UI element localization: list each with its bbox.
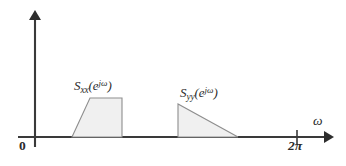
curve-sxx-label-sup: jω	[99, 78, 108, 88]
curve-syy-label-s: S	[180, 85, 187, 100]
curve-sxx-label-s: S	[74, 78, 81, 93]
curve-syy-label-close: )	[213, 85, 217, 100]
curve-syy-label: Syy(ejω)	[180, 86, 218, 99]
x-axis-label-omega: ω	[313, 114, 323, 128]
curve-syy-shape	[178, 104, 238, 137]
curve-syy-label-open: (e	[194, 85, 204, 100]
x-axis-tick-label-2pi: 2π	[288, 139, 302, 153]
axis-origin-label: 0	[19, 139, 26, 153]
curve-syy-label-sub: yy	[187, 92, 195, 102]
curve-sxx-label: Sxx(ejω)	[74, 79, 112, 92]
curve-sxx-label-open: (e	[88, 78, 98, 93]
x-axis-arrowhead	[324, 131, 334, 143]
curve-sxx-shape	[72, 98, 122, 137]
spectrum-figure: Sxx(ejω) Syy(ejω) 0 2π ω	[0, 0, 346, 166]
curve-sxx-label-close: )	[107, 78, 111, 93]
curve-syy-label-sup: jω	[205, 85, 214, 95]
curve-sxx-label-sub: xx	[81, 85, 89, 95]
y-axis-arrowhead	[29, 10, 41, 20]
